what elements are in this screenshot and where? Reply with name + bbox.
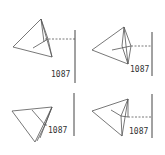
tetrahedron-inner-edge bbox=[33, 39, 48, 48]
tetrahedron-edge bbox=[48, 39, 52, 57]
dimension-label: 1087 bbox=[48, 126, 67, 135]
panel-top-right: 1087 bbox=[92, 27, 152, 76]
tetrahedron-inner-edge bbox=[111, 110, 121, 116]
tetrahedron-inner-edge bbox=[32, 110, 45, 125]
tetrahedron-views-diagram: 1087 1087 1087 1087 bbox=[0, 0, 165, 155]
dimension-label: 1087 bbox=[130, 65, 149, 74]
dimension-label: 1087 bbox=[51, 70, 70, 79]
tetrahedron-edge bbox=[121, 116, 122, 136]
tetrahedron-outline bbox=[12, 107, 52, 142]
tetrahedron-outline bbox=[13, 19, 52, 57]
dimension-label: 1087 bbox=[129, 127, 148, 136]
panel-top-left: 1087 bbox=[13, 19, 75, 83]
tetrahedron-inner-edge bbox=[121, 116, 128, 117]
panel-bottom-left: 1087 bbox=[12, 93, 74, 142]
tetrahedron-edge bbox=[128, 46, 131, 64]
tetrahedron-inner-edge bbox=[112, 46, 131, 50]
panel-bottom-right: 1087 bbox=[92, 94, 152, 138]
tetrahedron-inner-edge bbox=[122, 27, 124, 46]
tetrahedron-outline bbox=[92, 27, 128, 64]
tetrahedron-outline bbox=[92, 99, 128, 136]
